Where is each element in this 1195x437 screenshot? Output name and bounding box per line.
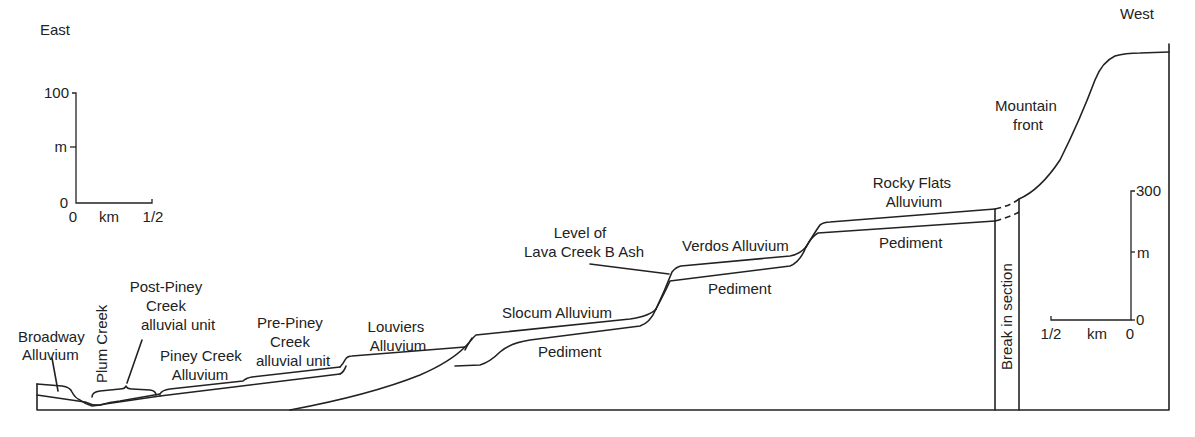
verdos-label: Verdos Alluvium bbox=[682, 237, 789, 254]
pediment-label-1: Pediment bbox=[538, 343, 602, 360]
west-label: West bbox=[1120, 5, 1155, 22]
scale-right-h-unit: km bbox=[1087, 325, 1107, 342]
piney-creek-label: Piney Creek Alluvium bbox=[160, 347, 246, 383]
plum-creek-label: Plum Creek bbox=[93, 304, 110, 383]
scale-left-v-unit: m bbox=[55, 138, 68, 155]
pre-piney-label: Pre-Piney Creek alluvial unit bbox=[256, 314, 331, 369]
scale-right-v-unit: m bbox=[1137, 244, 1150, 261]
lava-creek-leader bbox=[590, 264, 669, 274]
scale-right-h-zero: 0 bbox=[1126, 325, 1134, 342]
scale-right-axes bbox=[1051, 191, 1135, 320]
broadway-surface bbox=[37, 384, 160, 406]
slocum-label: Slocum Alluvium bbox=[502, 304, 612, 321]
broadway-label: Broadway Alluvium bbox=[18, 328, 89, 363]
post-piney-label: Post-Piney Creek alluvial unit bbox=[130, 278, 216, 333]
verdos-surface bbox=[656, 247, 806, 309]
scale-left-axes bbox=[72, 93, 152, 203]
scale-bar-left: 100 m 0 0 km 1/2 bbox=[44, 84, 163, 225]
scale-right-h-max: 1/2 bbox=[1041, 325, 1062, 342]
scale-left-h-zero: 0 bbox=[69, 208, 77, 225]
post-piney-bracket bbox=[92, 386, 156, 397]
pediment-label-3: Pediment bbox=[879, 234, 943, 251]
east-label: East bbox=[40, 21, 71, 38]
scale-left-h-max: 1/2 bbox=[143, 208, 164, 225]
mountain-front-label: Mountain front bbox=[995, 97, 1061, 133]
lava-creek-label: Level of Lava Creek B Ash bbox=[524, 224, 644, 260]
scale-bar-right: 300 m 0 1/2 km 0 bbox=[1041, 182, 1161, 342]
cross-section-diagram: East West 100 m 0 0 km 1/2 300 m 0 1/2 k… bbox=[0, 0, 1195, 437]
scale-right-v-max: 300 bbox=[1136, 182, 1161, 199]
rocky-flats-label: Rocky Flats Alluvium bbox=[873, 174, 956, 210]
scale-left-h-unit: km bbox=[99, 208, 119, 225]
scale-right-v-zero: 0 bbox=[1136, 311, 1144, 328]
rocky-flats-dashed-upper bbox=[995, 199, 1019, 209]
pediment-label-2: Pediment bbox=[708, 280, 772, 297]
scale-left-v-zero: 0 bbox=[60, 194, 68, 211]
louviers-label: Louviers Alluvium bbox=[368, 318, 429, 354]
scale-left-v-max: 100 bbox=[44, 84, 69, 101]
post-piney-leader bbox=[127, 340, 142, 383]
break-in-section-label: Break in section bbox=[998, 263, 1015, 370]
rocky-flats-dashed-lower bbox=[995, 212, 1019, 221]
